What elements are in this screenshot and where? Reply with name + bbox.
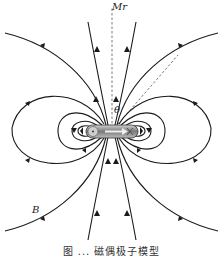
bar-magnet <box>86 125 138 138</box>
theta-label: θ <box>114 104 120 115</box>
figure-caption: 图 ... 磁偶极子模型 <box>0 243 223 258</box>
axis-label: Mr <box>111 1 128 12</box>
field-label-b: B <box>31 204 39 215</box>
